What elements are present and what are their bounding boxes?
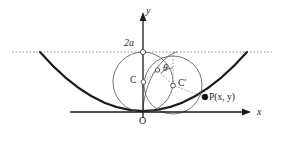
marker-point-p [202, 94, 208, 100]
two-a-label: 2a [124, 38, 134, 48]
x-axis-arrowhead [242, 109, 251, 116]
center-c-label: C [130, 76, 136, 86]
figure-root: y x 2a O C C′ θ P(x, y) [0, 0, 281, 141]
cycloid-arc [143, 52, 177, 112]
point-p-label: P(x, y) [209, 93, 235, 103]
marker-center-c-prime [171, 83, 176, 88]
origin-label: O [139, 116, 146, 126]
marker-rolling-contact [155, 68, 159, 72]
y-axis-label: y [146, 6, 150, 16]
marker-center-c [141, 80, 146, 85]
center-c-prime-label: C′ [178, 79, 186, 89]
theta-label: θ [163, 64, 168, 74]
x-axis-label: x [257, 107, 261, 117]
marker-top-tangent-point [140, 49, 145, 54]
